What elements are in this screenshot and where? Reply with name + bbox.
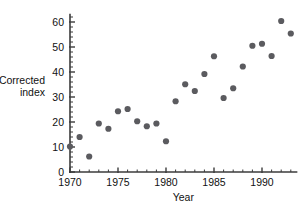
x-axis-tick-labels: 19701975198019851990 (58, 176, 274, 188)
y-axis-tick-label: 60 (52, 16, 64, 28)
data-point: 1992: 60.4 (278, 18, 284, 24)
data-point: 1978: 18.3 (144, 123, 150, 129)
x-axis-tick-label: 1990 (250, 176, 274, 188)
x-axis-tick-label: 1970 (58, 176, 82, 188)
data-point: 1983: 32.4 (192, 88, 198, 94)
y-axis-tick-label: 20 (52, 116, 64, 128)
data-point: 1986: 29.6 (221, 95, 227, 101)
data-point: 1993: 55.4 (288, 30, 294, 36)
data-point: 1973: 19.4 (96, 120, 102, 126)
data-point: 1979: 19.4 (153, 120, 159, 126)
data-point: 1980: 12.3 (163, 138, 169, 144)
data-point: 1990: 51.3 (259, 41, 265, 47)
y-axis-title-line: Corrected (0, 74, 45, 86)
scatter-chart: 0102030405060 19701975198019851990 1970:… (0, 0, 299, 209)
data-point: 1981: 28.3 (173, 98, 179, 104)
data-point: 1991: 46.4 (269, 53, 275, 59)
y-axis-tick-labels: 0102030405060 (52, 16, 64, 178)
data-point: 1989: 50.5 (249, 43, 255, 49)
y-axis-tick-label: 50 (52, 41, 64, 53)
x-axis-tick-label: 1985 (202, 176, 226, 188)
data-point: 1971: 14 (77, 134, 83, 140)
x-axis-tick-label: 1980 (154, 176, 178, 188)
y-axis-tick-label: 40 (52, 66, 64, 78)
y-axis-tick-label: 10 (52, 141, 64, 153)
data-point: 1970: 10.2 (67, 143, 73, 149)
data-point: 1987: 33.5 (230, 85, 236, 91)
x-axis-title: Year (173, 191, 195, 203)
data-point: 1984: 39.2 (201, 71, 207, 77)
data-point: 1974: 17.3 (105, 126, 111, 132)
data-points: 1970: 10.21971: 141972: 6.21973: 19.4197… (67, 18, 294, 160)
y-axis-title-line: index (20, 86, 46, 98)
data-point: 1976: 25.2 (125, 106, 131, 112)
x-axis-tick-label: 1975 (106, 176, 130, 188)
data-point: 1972: 6.2 (86, 153, 92, 159)
x-axis (70, 168, 297, 174)
data-point: 1977: 20.3 (134, 118, 140, 124)
data-point: 1982: 35.1 (182, 81, 188, 87)
data-point: 1985: 46.3 (211, 53, 217, 59)
data-point: 1988: 42.2 (240, 63, 246, 69)
y-axis-tick-label: 30 (52, 91, 64, 103)
plot-area: 0102030405060 19701975198019851990 1970:… (0, 0, 299, 209)
data-point: 1975: 24.3 (115, 108, 121, 114)
